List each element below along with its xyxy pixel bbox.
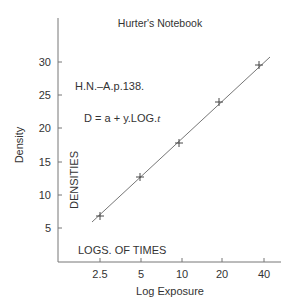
y-tick-label: 15 (39, 156, 51, 168)
y-tick-label: 10 (39, 189, 51, 201)
annotation-logs-of-times: LOGS. OF TIMES (78, 244, 166, 256)
y-axis-label: Density (13, 126, 25, 163)
y-tick-label: 5 (45, 222, 51, 234)
y-tick-label: 30 (39, 56, 51, 68)
x-tick-label: 2.5 (92, 268, 107, 280)
y-tick-label: 20 (39, 122, 51, 134)
plus-marker-icon (96, 212, 104, 220)
plus-marker-icon (175, 139, 183, 147)
x-tick-label: 10 (176, 268, 188, 280)
x-tick-label: 5 (138, 268, 144, 280)
x-tick-label: 40 (258, 268, 270, 280)
x-ticks: 2.5 5 10 20 40 (92, 258, 270, 280)
y-ticks: 30 25 20 15 10 5 (39, 56, 62, 234)
y-tick-label: 25 (39, 89, 51, 101)
chart-title: Hurter's Notebook (118, 17, 203, 29)
annotation-formula: D = a + y.LOG.t (84, 112, 161, 124)
x-tick-label: 20 (216, 268, 228, 280)
x-axis-label: Log Exposure (136, 285, 204, 297)
annotation-densities: DENSITIES (68, 151, 80, 209)
annotation-reference: H.N.–A.p.138. (75, 80, 144, 92)
plus-marker-icon (215, 98, 223, 106)
density-chart: Hurter's Notebook 30 25 20 15 10 5 2.5 5… (0, 0, 295, 305)
plus-marker-icon (255, 61, 263, 69)
